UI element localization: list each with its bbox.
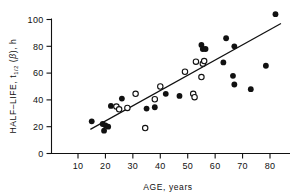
y-axis-title-text: HALF–LIFE, t1/2 (β), h (8, 39, 19, 134)
regression-line (90, 24, 281, 130)
x-tick-label: 50 (182, 161, 193, 171)
y-axis-ticks: 020406080100 (28, 15, 52, 159)
y-axis-title-subscript: 1/2 (13, 65, 19, 75)
data-point-filled (273, 11, 279, 17)
x-tick-label: 20 (100, 161, 111, 171)
chart-svg: HALF–LIFE, t1/2 (β), h AGE, years 020406… (0, 0, 297, 195)
data-point-filled (152, 104, 158, 110)
data-point-filled (163, 91, 169, 97)
data-point-filled (230, 73, 236, 79)
data-point-filled (220, 59, 226, 65)
y-tick-label: 60 (33, 68, 44, 78)
x-tick-label: 70 (237, 161, 248, 171)
data-point-filled (89, 118, 95, 124)
data-point-open (158, 84, 163, 89)
data-point-filled (248, 86, 254, 92)
x-axis-ticks: 1020304050607080 (73, 154, 276, 172)
scatter-chart-figure: HALF–LIFE, t1/2 (β), h AGE, years 020406… (0, 0, 297, 195)
x-tick-label: 40 (155, 161, 166, 171)
data-point-open (133, 91, 138, 96)
data-point-open (201, 58, 206, 63)
data-point-filled (231, 82, 237, 88)
x-tick-label: 60 (210, 161, 221, 171)
data-point-open (125, 105, 130, 110)
y-axis-title: HALF–LIFE, t1/2 (β), h (8, 39, 19, 134)
data-point-filled (105, 124, 111, 130)
data-point-filled (203, 46, 209, 52)
data-point-filled (144, 106, 150, 112)
data-point-filled (231, 43, 237, 49)
data-point-filled (177, 93, 183, 99)
data-point-open (199, 74, 204, 79)
regression-line-group (90, 24, 281, 130)
data-point-open (143, 125, 148, 130)
data-point-open (116, 107, 121, 112)
data-point-filled (263, 63, 269, 69)
data-point-filled (223, 35, 229, 41)
data-point-filled (119, 96, 125, 102)
x-axis-title: AGE, years (143, 182, 192, 192)
x-tick-label: 30 (128, 161, 139, 171)
data-point-open (192, 95, 197, 100)
y-axis-title-prefix: HALF–LIFE, t (8, 75, 18, 134)
data-point-open (193, 59, 198, 64)
y-axis-title-suffix: ), h (8, 39, 18, 54)
y-tick-label: 20 (33, 122, 44, 132)
x-tick-label: 80 (265, 161, 276, 171)
y-tick-label: 0 (38, 149, 43, 159)
x-tick-label: 10 (73, 161, 84, 171)
open-circle-points (114, 58, 207, 130)
data-point-open (182, 69, 187, 74)
data-point-filled (108, 103, 114, 109)
y-tick-label: 40 (33, 95, 44, 105)
data-point-open (152, 97, 157, 102)
y-tick-label: 100 (28, 15, 44, 25)
y-tick-label: 80 (33, 42, 44, 52)
